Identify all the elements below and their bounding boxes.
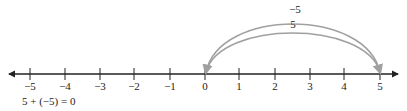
tick-label: 0 <box>202 80 208 92</box>
tick-label: 1 <box>236 80 242 92</box>
tick-label: 2 <box>272 80 278 92</box>
tick-label: −3 <box>94 80 106 92</box>
tick-label: 4 <box>341 80 347 92</box>
tick-label: −4 <box>59 80 71 92</box>
tick-label: 3 <box>307 80 313 92</box>
arc-label-outer: −5 <box>289 3 301 15</box>
arc-label-inner: 5 <box>290 18 296 30</box>
tick-label: −5 <box>24 80 36 92</box>
tick-label: −1 <box>164 80 176 92</box>
number-line-diagram: −5−4−3−2−1012345 −5 5 5 + (−5) = 0 <box>0 0 407 111</box>
tick-label: 5 <box>377 80 383 92</box>
arc-outer-minus-five <box>206 24 380 72</box>
tick-label: −2 <box>128 80 140 92</box>
equation: 5 + (−5) = 0 <box>22 95 75 107</box>
